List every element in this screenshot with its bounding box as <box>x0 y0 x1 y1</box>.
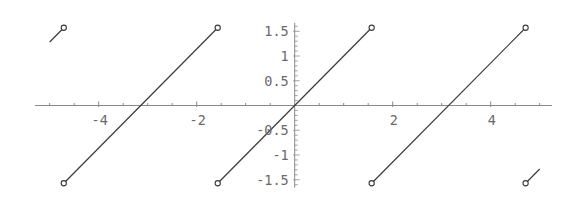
y-tick-label: 1.5 <box>264 23 288 39</box>
x-tick-label: -2 <box>190 112 206 128</box>
open-circle-marker <box>61 181 66 186</box>
y-tick-label: -1 <box>272 147 288 163</box>
axes <box>35 23 552 188</box>
open-circle-marker <box>523 181 528 186</box>
plot-canvas: -4-2241.510.5-0.5-1-1.5 <box>0 0 576 200</box>
open-circle-marker <box>523 25 528 30</box>
y-tick-label: -1.5 <box>256 172 289 188</box>
open-circle-marker <box>369 25 374 30</box>
x-tick-label: 2 <box>390 112 398 128</box>
open-circle-marker <box>215 181 220 186</box>
y-tick-label: 1 <box>281 48 289 64</box>
open-circle-marker <box>215 25 220 30</box>
y-tick-label: -0.5 <box>256 122 289 138</box>
open-circle-marker <box>61 25 66 30</box>
x-tick-label: -4 <box>92 112 108 128</box>
x-tick-label: 4 <box>488 112 496 128</box>
y-tick-label: 0.5 <box>264 73 288 89</box>
open-circle-marker <box>369 181 374 186</box>
